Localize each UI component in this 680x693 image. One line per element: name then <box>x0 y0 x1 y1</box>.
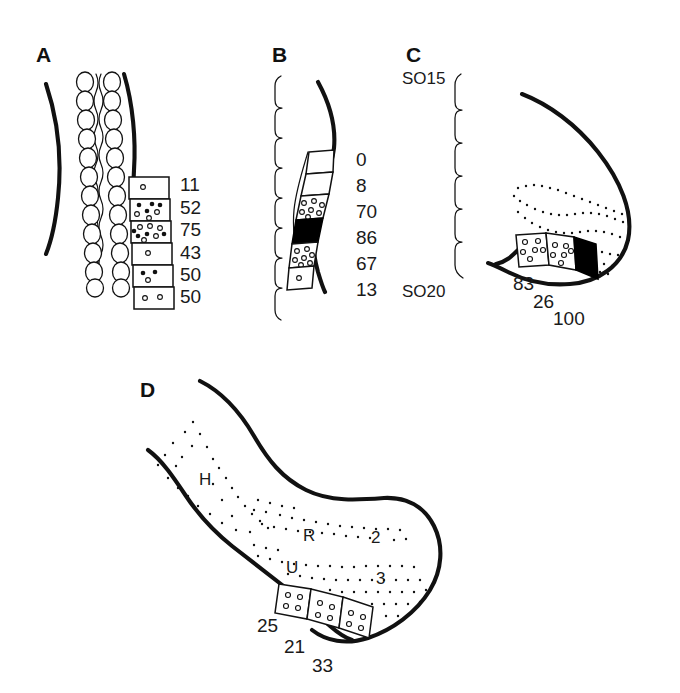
panel-b-box-1 <box>306 150 334 174</box>
panel-b: B <box>272 43 377 320</box>
panel-c-box-3 <box>574 237 598 279</box>
panel-d-region-label-u: U <box>286 558 298 577</box>
panel-b-value-4: 86 <box>356 227 377 248</box>
panel-d-value-2: 21 <box>284 636 305 657</box>
panel-b-value-1: 0 <box>356 149 367 170</box>
panel-a-box-6 <box>134 287 174 309</box>
panel-d-box-3 <box>339 597 373 638</box>
panel-c-stipple-band-1 <box>513 184 624 223</box>
panel-b-value-3: 70 <box>356 201 377 222</box>
panel-d-value-1: 25 <box>257 615 278 636</box>
panel-c-scale-bracket <box>455 74 463 278</box>
panel-d-region-label-2: 2 <box>371 528 380 547</box>
panel-a-box-1 <box>129 177 169 199</box>
panel-d-region-label-3: 3 <box>376 569 385 588</box>
panel-a-value-3: 75 <box>180 219 201 240</box>
panel-c-value-2: 26 <box>533 291 554 312</box>
panel-d: D H <box>140 378 440 676</box>
panel-b-letter: B <box>272 43 287 66</box>
panel-b-box-3 <box>296 194 329 220</box>
panel-c-letter: C <box>406 43 421 66</box>
panel-c-box-2 <box>546 233 576 270</box>
panel-d-box-1 <box>275 584 311 619</box>
panel-d-stipple-layer-r <box>253 499 407 541</box>
panel-d-letter: D <box>140 378 155 401</box>
figure-canvas: A <box>0 0 680 693</box>
panel-c: C SO15 SO20 <box>402 43 629 329</box>
panel-a-box-3 <box>131 221 171 243</box>
panel-b-box-6 <box>287 266 314 290</box>
panel-d-box-2 <box>307 589 343 628</box>
panel-b-box-4 <box>292 218 323 244</box>
panel-a: A <box>36 43 201 309</box>
panel-a-box-4 <box>132 243 172 265</box>
panel-a-cell-column-right <box>104 72 130 297</box>
panel-a-membrane-line-2 <box>99 74 103 272</box>
panel-a-letter: A <box>36 43 51 66</box>
panel-c-value-1: 83 <box>513 273 534 294</box>
panel-c-scale-label-bottom: SO20 <box>402 282 445 301</box>
panel-b-box-5 <box>289 242 318 268</box>
panel-a-box-2 <box>130 199 170 221</box>
panel-c-scale-label-top: SO15 <box>402 69 445 88</box>
panel-c-value-3: 100 <box>553 308 585 329</box>
panel-d-value-3: 33 <box>312 655 333 676</box>
panel-a-value-2: 52 <box>180 197 201 218</box>
panel-a-value-4: 43 <box>180 242 201 263</box>
panel-a-box-5 <box>133 265 173 287</box>
panel-b-value-6: 13 <box>356 279 377 300</box>
panel-a-left-boundary <box>46 84 60 254</box>
panel-d-region-label-r: R <box>303 526 315 545</box>
panel-b-scale-bracket <box>275 76 282 320</box>
panel-a-value-6: 50 <box>180 286 201 307</box>
panel-b-box-2 <box>301 172 333 196</box>
panel-a-value-1: 11 <box>180 174 200 195</box>
figure-root: A <box>0 0 680 693</box>
panel-c-box-1 <box>516 233 549 267</box>
panel-d-region-label-h: H <box>199 470 211 489</box>
panel-c-lower-boundary <box>496 250 518 264</box>
panel-a-value-5: 50 <box>180 264 201 285</box>
panel-b-value-2: 8 <box>356 175 367 196</box>
panel-b-value-5: 67 <box>356 253 377 274</box>
